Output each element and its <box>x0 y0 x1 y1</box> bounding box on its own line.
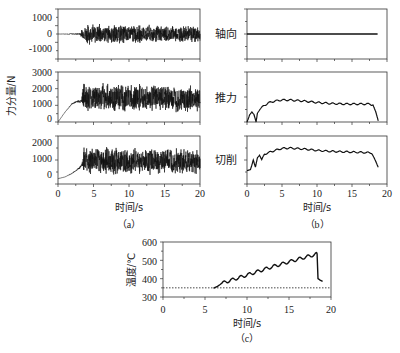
panel-b: 轴向 推力 切削 0 5 10 15 20 时间/s （b） <box>215 9 392 230</box>
c-ylabel: 温度/℃ <box>125 253 137 288</box>
plot-frame <box>247 72 387 122</box>
b-xtick-5: 5 <box>280 188 285 199</box>
a-xtick-20: 20 <box>195 188 205 199</box>
b-xtick-15: 15 <box>347 188 357 199</box>
a2-ytick-3000: 3000 <box>32 67 52 78</box>
c-ytick-600: 600 <box>142 237 157 248</box>
plot-b-axial <box>244 9 387 62</box>
a3-ytick-1000: 1000 <box>32 153 52 164</box>
a-xtick-15: 15 <box>160 188 170 199</box>
panel-c-label: （c） <box>235 333 259 344</box>
plot-frame <box>163 242 331 297</box>
signal-line <box>58 147 200 179</box>
figure: 1000 0 -1000 3000 2000 1000 0 2000 1000 … <box>0 0 400 353</box>
b-xlabel: 时间/s <box>303 201 332 213</box>
a2-ytick-1000: 1000 <box>32 98 52 109</box>
b-xtick-0: 0 <box>245 188 250 199</box>
a1-ytick-0: 0 <box>47 28 52 39</box>
plot-b-thrust <box>244 72 387 125</box>
label-thrust: 推力 <box>215 91 237 105</box>
temperature-line <box>213 253 322 289</box>
a1-ytick-neg1000: -1000 <box>29 43 52 54</box>
label-axial: 轴向 <box>215 27 237 41</box>
c-ytick-300: 300 <box>142 292 157 303</box>
a-ylabel: 力分量/N <box>5 76 17 117</box>
panel-b-label: （b） <box>305 219 330 230</box>
label-cutting: 切削 <box>215 153 237 167</box>
c-ytick-500: 500 <box>142 256 157 267</box>
plot-a-axial-raw <box>55 9 200 62</box>
filtered-line <box>247 147 378 170</box>
a-xtick-5: 5 <box>92 188 97 199</box>
plot-frame <box>247 136 387 184</box>
a3-ytick-2000: 2000 <box>32 137 52 148</box>
c-xtick-5: 5 <box>203 304 208 315</box>
a3-ytick-0: 0 <box>47 169 52 180</box>
panel-a-label: （a） <box>117 219 141 230</box>
c-xtick-20: 20 <box>326 304 336 315</box>
c-xtick-0: 0 <box>161 304 166 315</box>
c-xtick-10: 10 <box>242 304 252 315</box>
a2-ytick-2000: 2000 <box>32 83 52 94</box>
c-xlabel: 时间/s <box>233 317 262 329</box>
plot-b-cutting <box>244 136 387 187</box>
c-ytick-400: 400 <box>142 274 157 285</box>
a-xtick-10: 10 <box>124 188 134 199</box>
signal-line <box>58 83 200 121</box>
a2-ytick-0: 0 <box>47 113 52 124</box>
a-xtick-0: 0 <box>56 188 61 199</box>
panel-c: 600 500 400 300 0 5 10 15 20 时间/s 温度/℃ （… <box>125 237 336 344</box>
plot-a-thrust-raw <box>55 72 200 125</box>
filtered-line <box>247 99 378 122</box>
b-xtick-10: 10 <box>312 188 322 199</box>
a-xlabel: 时间/s <box>115 201 144 213</box>
panel-a: 1000 0 -1000 3000 2000 1000 0 2000 1000 … <box>5 9 205 230</box>
b-xtick-20: 20 <box>382 188 392 199</box>
plot-c-temperature <box>160 242 331 300</box>
a1-ytick-1000: 1000 <box>32 12 52 23</box>
c-xtick-15: 15 <box>284 304 294 315</box>
signal-line <box>58 24 200 45</box>
plot-a-cutting-raw <box>55 136 200 187</box>
